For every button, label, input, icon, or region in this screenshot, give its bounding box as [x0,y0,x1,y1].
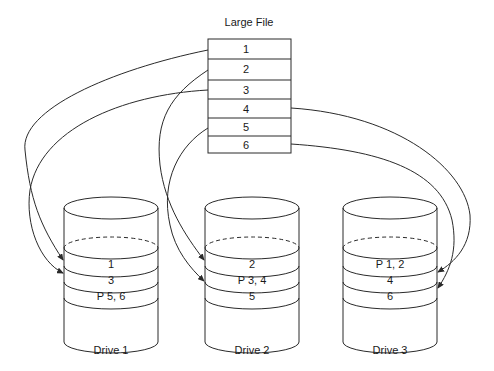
drive1-block-2: 3 [108,274,114,286]
drive2-block-1: 2 [249,258,255,270]
drive3-block-1: P 1, 2 [376,258,405,270]
arrow-6-to-drive3 [291,144,454,288]
drive-1: 1 3 P 5, 6 Drive 1 [64,197,158,356]
drive3-block-3: 6 [387,290,393,302]
arrow-3-to-drive1 [29,90,208,273]
drive1-label: Drive 1 [94,344,129,356]
file-block-3: 3 [243,84,249,96]
arrow-4-to-drive3 [291,108,470,272]
large-file-table: 1 2 3 4 5 6 [208,39,291,153]
arrow-2-to-drive2 [159,70,208,260]
file-block-4: 4 [243,103,249,115]
file-block-6: 6 [243,139,249,151]
drive-2: 2 P 3, 4 5 Drive 2 [205,197,299,356]
drive2-label: Drive 2 [235,344,270,356]
drive1-block-1: 1 [108,258,114,270]
large-file-title: Large File [225,16,274,28]
raid-diagram: Large File 1 2 3 4 5 6 1 3 P 5, [0,0,494,371]
drive3-label: Drive 3 [373,344,408,356]
drive1-block-3: P 5, 6 [97,290,126,302]
file-block-1: 1 [243,43,249,55]
file-block-5: 5 [243,121,249,133]
drive2-block-2: P 3, 4 [238,274,267,286]
drive2-block-3: 5 [249,290,255,302]
drive-3: P 1, 2 4 6 Drive 3 [343,197,437,356]
drive3-block-2: 4 [387,274,393,286]
file-block-2: 2 [243,63,249,75]
